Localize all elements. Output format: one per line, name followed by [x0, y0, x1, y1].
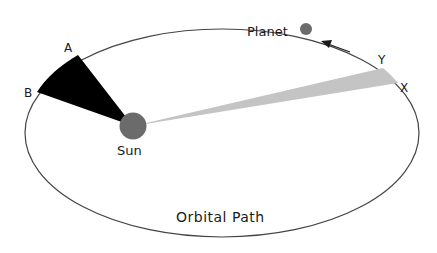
label-planet: Planet [247, 24, 288, 39]
sector-a-b [37, 55, 133, 126]
label-point-x: X [400, 81, 408, 95]
label-point-y: Y [377, 53, 386, 67]
label-sun: Sun [117, 143, 142, 158]
orbital-path [25, 29, 419, 237]
kepler-diagram: Planet Sun Orbital Path A B Y X [0, 0, 437, 253]
motion-arrow-shaft [328, 44, 350, 52]
sun [120, 113, 147, 140]
sector-x-y [133, 68, 398, 126]
label-point-b: B [24, 86, 32, 100]
label-point-a: A [64, 41, 73, 55]
planet [300, 23, 312, 35]
motion-arrow-icon [321, 40, 350, 52]
label-orbital-path: Orbital Path [176, 209, 265, 225]
